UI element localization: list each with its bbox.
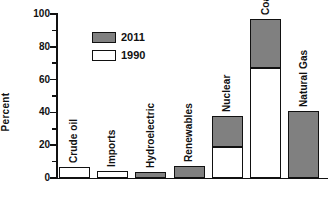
bar-segment-1990 — [97, 171, 128, 178]
bar-segment-2011 — [174, 166, 205, 178]
bar-label-imports: Imports — [106, 130, 117, 167]
legend-item-1990[interactable]: 1990 — [92, 48, 145, 63]
bar-nuclear[interactable]: Nuclear — [212, 14, 243, 178]
bar-label-renewables: Renewables — [183, 103, 194, 162]
bar-label-coal: Coal — [260, 0, 271, 15]
y-tick-label: 20 — [8, 139, 50, 150]
legend-item-2011[interactable]: 2011 — [92, 30, 145, 45]
bar-label-hydroelectric: Hydroelectric — [145, 103, 156, 168]
y-tick-label: 100 — [8, 8, 50, 19]
legend: 20111990 — [92, 30, 145, 66]
bar-renewables[interactable]: Renewables — [174, 14, 205, 178]
bar-label-natural-gas: Natural Gas — [298, 50, 309, 107]
y-tick-label: 0 — [8, 172, 50, 183]
bar-segment-1990 — [250, 68, 281, 178]
bar-crude-oil[interactable]: Crude oil — [59, 14, 90, 178]
bar-label-nuclear: Nuclear — [221, 74, 232, 111]
bar-segment-1990 — [212, 147, 243, 178]
bar-segment-2011 — [288, 111, 319, 178]
bar-label-crude-oil: Crude oil — [68, 118, 79, 162]
bar-segment-2011 — [212, 116, 243, 147]
bar-natural-gas[interactable]: Natural Gas — [288, 14, 319, 178]
bar-segment-2011 — [135, 172, 166, 178]
bar-chart: Percent 020406080100 Crude oilImportsHyd… — [0, 0, 334, 202]
legend-label-1990: 1990 — [121, 50, 145, 61]
legend-label-2011: 2011 — [121, 32, 145, 43]
legend-swatch-2011 — [92, 32, 116, 43]
legend-swatch-1990 — [92, 50, 116, 61]
y-tick-label: 40 — [8, 106, 50, 117]
y-tick-label: 80 — [8, 41, 50, 52]
bar-coal[interactable]: Coal — [250, 14, 281, 178]
bar-segment-1990 — [59, 167, 90, 178]
bar-segment-2011 — [250, 19, 281, 68]
y-tick-label: 60 — [8, 74, 50, 85]
